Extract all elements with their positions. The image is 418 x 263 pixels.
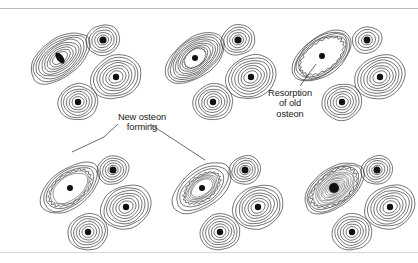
haversian-canal — [255, 204, 261, 210]
haversian-canal — [374, 167, 381, 174]
haversian-canal — [85, 229, 91, 235]
osteon-satellite-osteon-right — [101, 185, 152, 229]
haversian-canal — [210, 99, 216, 105]
label-new-osteon-forming: New osteon forming — [96, 112, 188, 133]
haversian-canal — [75, 99, 81, 105]
osteon-satellite-osteon-upper-right — [229, 155, 261, 184]
osteon-satellite-osteon-upper-right — [221, 25, 255, 55]
osteon-primary-osteon — [305, 163, 364, 214]
osteon-primary-osteon — [165, 33, 224, 84]
panel-new-lamellae-thick — [172, 155, 283, 249]
haversian-canal — [349, 229, 355, 235]
osteon-satellite-osteon-lower — [200, 214, 240, 250]
osteon-satellite-osteon-upper-right — [97, 156, 129, 184]
haversian-canal — [199, 185, 205, 191]
haversian-canal — [248, 74, 254, 80]
haversian-canal — [113, 74, 119, 80]
haversian-canal — [99, 36, 106, 43]
osteon-satellite-osteon-lower — [193, 83, 233, 119]
osteon-remodeling-figure — [0, 0, 418, 263]
haversian-canal — [329, 183, 339, 193]
osteon-satellite-osteon-right — [91, 55, 141, 99]
haversian-canal — [319, 53, 325, 59]
osteon-satellite-osteon-upper-right — [361, 155, 393, 184]
osteon-satellite-osteon-right — [232, 185, 282, 229]
haversian-canal — [67, 185, 73, 191]
haversian-canal — [364, 37, 371, 44]
haversian-canal — [192, 55, 198, 61]
haversian-canal — [339, 99, 345, 105]
osteon-primary-osteon — [172, 163, 231, 214]
panel-new-lamellae-thin — [40, 156, 151, 250]
haversian-canal — [234, 36, 241, 43]
osteon-satellite-osteon-right — [355, 55, 405, 99]
label-resorption-of-old-osteon: Resorption of old osteon — [252, 88, 328, 119]
haversian-canal — [387, 204, 393, 210]
panel-new-osteon-complete — [305, 155, 415, 250]
osteon-satellite-osteon-lower — [58, 83, 98, 119]
osteon-primary-osteon — [292, 30, 351, 81]
haversian-canal — [110, 167, 117, 174]
osteon-satellite-osteon-upper-right — [352, 27, 382, 54]
haversian-canal — [377, 74, 383, 80]
osteon-satellite-osteon-right — [365, 185, 415, 229]
haversian-canal — [242, 167, 249, 174]
osteon-satellite-osteon-lower — [332, 213, 372, 249]
haversian-canal — [217, 229, 223, 235]
panel-intact-osteon — [31, 25, 140, 120]
osteon-primary-osteon — [31, 33, 90, 84]
osteon-satellite-osteon-upper-right — [86, 25, 120, 56]
osteon-primary-osteon — [40, 162, 99, 213]
haversian-canal — [123, 204, 129, 210]
osteon-satellite-osteon-lower — [68, 213, 108, 250]
